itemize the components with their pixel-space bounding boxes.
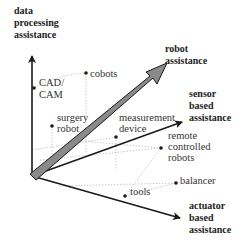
label-remote-controlled-robots: remote controlled robots: [168, 130, 213, 163]
point-balancer: [174, 181, 178, 185]
point-remote-controlled-robots: [159, 146, 163, 150]
vertical-axis-label: data processing assistance: [14, 5, 61, 40]
label-tools: tools: [130, 186, 150, 197]
point-measurement-device: [114, 135, 118, 139]
point-cad-cam: [32, 86, 36, 90]
point-surgery-robot: [50, 124, 54, 128]
assistance-dimensions-diagram: data processing assistance robot assista…: [0, 0, 245, 246]
point-cobots: [84, 71, 88, 75]
actuator-axis-label: actuator based assistance: [189, 200, 232, 235]
sensor-axis-label: sensor based assistance: [189, 88, 232, 123]
label-cobots: cobots: [90, 68, 117, 79]
point-tools: [123, 194, 127, 198]
robot-axis-label: robot assistance: [165, 43, 208, 66]
sensor-axis: [32, 122, 182, 176]
label-cad-cam: CAD/ CAM: [39, 77, 67, 100]
actuator-axis: [32, 176, 180, 218]
label-balancer: balancer: [180, 175, 216, 186]
